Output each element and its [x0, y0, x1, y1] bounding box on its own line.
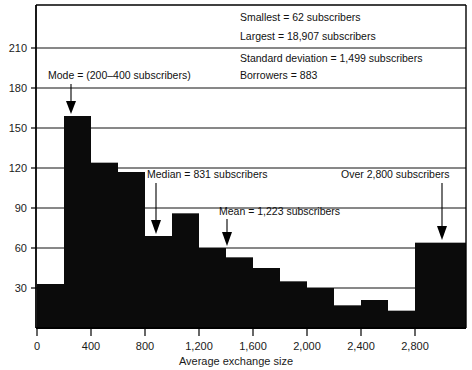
table-row: [91, 163, 118, 328]
table-row: [37, 284, 64, 328]
x-tick-label-2800: 2,800: [401, 340, 429, 352]
y-tick-label-30: 30: [15, 282, 27, 294]
table-row: [118, 172, 145, 328]
annotation-mode-label: Mode = (200–400 subscribers): [48, 69, 191, 81]
table-row: [145, 236, 172, 328]
table-row: [415, 243, 466, 328]
y-tick-label-180: 180: [9, 82, 27, 94]
y-tick-label-90: 90: [15, 202, 27, 214]
table-row: [388, 311, 415, 328]
stat-largest: Largest = 18,907 subscribers: [240, 30, 376, 42]
annotation-mean-label: Mean = 1,223 subscribers: [219, 205, 340, 217]
table-row: [226, 257, 253, 328]
annotation-median-label: Median = 831 subscribers: [147, 168, 268, 180]
y-tick-label-150: 150: [9, 122, 27, 134]
table-row: [361, 300, 388, 328]
table-row: [199, 248, 226, 328]
x-tick-label-400: 400: [82, 340, 100, 352]
stat-std-dev: Standard deviation = 1,499 subscribers: [240, 52, 422, 64]
y-tick-label-210: 210: [9, 42, 27, 54]
x-tick-label-0: 0: [34, 340, 40, 352]
x-tick-label-2400: 2,400: [347, 340, 375, 352]
stat-smallest: Smallest = 62 subscribers: [240, 11, 361, 23]
stat-borrowers: Borrowers = 883: [240, 69, 317, 81]
x-tick-label-2000: 2,000: [293, 340, 321, 352]
x-axis-title: Average exchange size: [179, 355, 293, 367]
table-row: [172, 213, 199, 328]
table-row: [64, 116, 91, 328]
y-tick-label-60: 60: [15, 242, 27, 254]
table-row: [334, 305, 361, 328]
table-row: [280, 281, 307, 328]
table-row: [307, 288, 334, 328]
x-tick-label-800: 800: [136, 340, 154, 352]
histogram-svg: 210 180 150 120 90 60 30 0 400 800 1,200…: [0, 0, 472, 370]
annotation-overflow-label: Over 2,800 subscribers: [341, 168, 450, 180]
histogram-figure: 210 180 150 120 90 60 30 0 400 800 1,200…: [0, 0, 472, 370]
y-tick-label-120: 120: [9, 162, 27, 174]
x-tick-label-1600: 1,600: [239, 340, 267, 352]
x-tick-label-1200: 1,200: [185, 340, 213, 352]
table-row: [253, 268, 280, 328]
